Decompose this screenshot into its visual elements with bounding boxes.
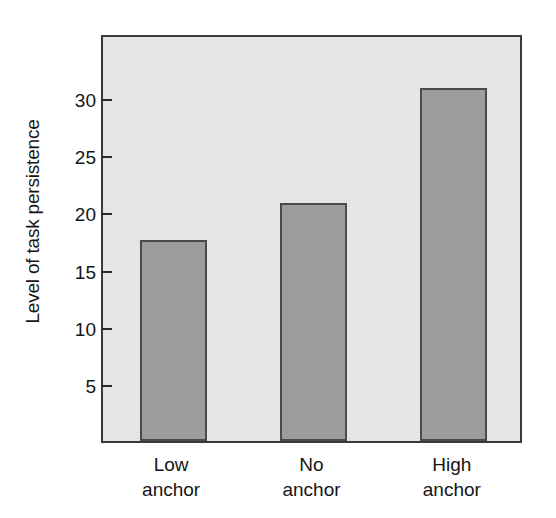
bar-chart-figure: Level of task persistence 51015202530 Lo… [0, 0, 556, 518]
y-tick-mark [101, 156, 112, 158]
bar [280, 203, 347, 441]
x-tick-label-line2: anchor [423, 477, 481, 502]
x-tick-label: Highanchor [423, 452, 481, 502]
x-tick-label: Noanchor [282, 452, 340, 502]
y-tick-mark [101, 99, 112, 101]
y-tick-label: 25 [75, 148, 96, 167]
x-tick-label-line2: anchor [142, 477, 200, 502]
x-tick-label-line1: No [282, 452, 340, 477]
x-tick-label-line1: High [423, 452, 481, 477]
bar [140, 240, 207, 441]
x-tick-label: Lowanchor [142, 452, 200, 502]
y-tick-label: 5 [85, 376, 96, 395]
y-tick-mark [101, 385, 112, 387]
y-tick-mark [101, 213, 112, 215]
y-tick-mark [101, 271, 112, 273]
y-tick-label: 10 [75, 319, 96, 338]
bar [420, 88, 487, 441]
x-axis-tick-labels: LowanchorNoanchorHighanchor [101, 452, 522, 514]
x-tick-label-line1: Low [142, 452, 200, 477]
x-tick-label-line2: anchor [282, 477, 340, 502]
y-tick-label: 20 [75, 205, 96, 224]
y-axis-tick-labels: 51015202530 [52, 35, 96, 443]
y-tick-mark [101, 328, 112, 330]
y-axis-title: Level of task persistence [18, 0, 48, 443]
y-tick-label: 30 [75, 91, 96, 110]
y-tick-label: 15 [75, 262, 96, 281]
plot-area [101, 35, 522, 443]
